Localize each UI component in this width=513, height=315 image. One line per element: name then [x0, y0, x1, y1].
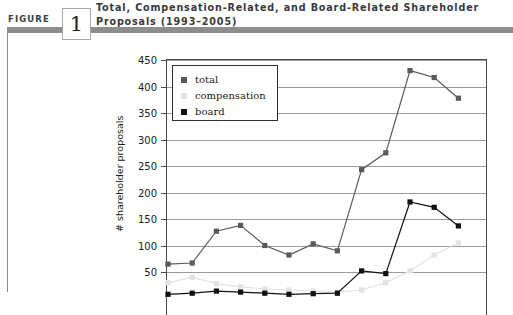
data-point-board-2004 — [432, 205, 437, 210]
data-point-board-2003 — [407, 199, 412, 204]
chart-legend: totalcompensationboard — [172, 65, 278, 121]
legend-item-board: board — [181, 104, 225, 120]
data-point-total-2000 — [335, 248, 340, 253]
legend-label-total: total — [195, 75, 218, 85]
legend-swatch-compensation — [181, 93, 187, 99]
data-point-board-1995 — [214, 289, 219, 294]
figure-title: Total, Compensation-Related, and Board-R… — [96, 1, 511, 28]
data-point-total-1995 — [214, 229, 219, 234]
data-point-total-1993 — [165, 262, 170, 267]
data-point-total-2004 — [432, 75, 437, 80]
data-point-compensation-1993 — [165, 280, 170, 285]
data-point-total-2003 — [407, 68, 412, 73]
data-point-board-2002 — [383, 271, 388, 276]
legend-swatch-board — [181, 109, 187, 115]
legend-swatch-total — [181, 77, 187, 83]
left-margin-rule — [7, 33, 8, 292]
series-line-board — [168, 202, 458, 294]
data-point-compensation-2001 — [359, 287, 364, 292]
figure-label: FIGURE — [8, 14, 50, 24]
data-point-compensation-2005 — [456, 240, 461, 245]
series-compensation — [165, 240, 461, 294]
legend-item-compensation: compensation — [181, 88, 266, 104]
legend-label-compensation: compensation — [195, 91, 266, 101]
data-point-compensation-2002 — [383, 280, 388, 285]
data-point-board-1997 — [262, 291, 267, 296]
data-point-total-1996 — [238, 223, 243, 228]
legend-item-total: total — [181, 72, 218, 88]
data-point-board-2000 — [335, 291, 340, 296]
data-point-compensation-2003 — [407, 268, 412, 273]
data-point-compensation-1995 — [214, 281, 219, 286]
data-point-total-2001 — [359, 167, 364, 172]
figure-number: 1 — [63, 9, 90, 39]
data-point-total-1997 — [262, 243, 267, 248]
data-point-total-1998 — [286, 252, 291, 257]
figure-number-box: 1 — [62, 8, 91, 40]
data-point-compensation-1994 — [190, 275, 195, 280]
data-point-board-2001 — [359, 268, 364, 273]
data-point-board-1998 — [286, 292, 291, 297]
data-point-compensation-2004 — [432, 252, 437, 257]
data-point-total-2002 — [383, 150, 388, 155]
series-line-compensation — [168, 243, 458, 292]
data-point-board-1993 — [165, 292, 170, 297]
data-point-board-1994 — [190, 291, 195, 296]
data-point-total-1999 — [311, 241, 316, 246]
data-point-total-1994 — [190, 260, 195, 265]
data-point-board-2005 — [456, 223, 461, 228]
data-point-board-1999 — [311, 291, 316, 296]
data-point-total-2005 — [456, 96, 461, 101]
data-point-compensation-1996 — [238, 284, 243, 289]
chart-area: # shareholder proposals 5010015020025030… — [0, 36, 513, 292]
data-point-board-1996 — [238, 290, 243, 295]
legend-label-board: board — [195, 107, 225, 117]
